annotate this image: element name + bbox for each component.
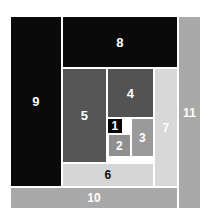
figure-root: 9811510746321 <box>0 0 213 223</box>
square-10: 10 <box>10 187 178 209</box>
squared-square-diagram: 9811510746321 <box>10 16 201 209</box>
square-5: 5 <box>62 68 107 163</box>
square-label-11: 11 <box>183 107 196 119</box>
square-label-9: 9 <box>32 95 39 108</box>
square-9: 9 <box>10 16 62 187</box>
square-label-1: 1 <box>112 120 119 132</box>
square-label-4: 4 <box>127 87 134 100</box>
square-label-10: 10 <box>87 192 101 204</box>
square-6: 6 <box>62 163 154 187</box>
square-label-2: 2 <box>116 140 123 152</box>
square-3: 3 <box>131 118 154 157</box>
square-11: 11 <box>178 16 201 209</box>
square-label-6: 6 <box>105 169 112 181</box>
square-label-5: 5 <box>81 109 88 122</box>
square-8: 8 <box>62 16 178 68</box>
square-7: 7 <box>154 68 178 187</box>
square-1: 1 <box>107 118 123 134</box>
square-label-8: 8 <box>116 36 123 49</box>
square-label-3: 3 <box>139 132 146 144</box>
square-2: 2 <box>108 134 131 157</box>
square-label-7: 7 <box>163 122 170 134</box>
square-4: 4 <box>107 68 154 118</box>
